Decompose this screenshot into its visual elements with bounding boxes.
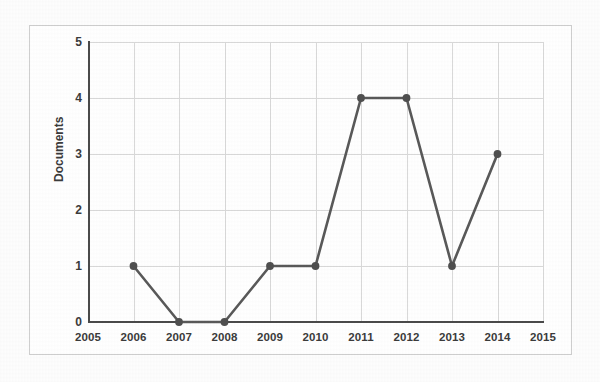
x-axis-tick-label: 2013 [429, 331, 475, 343]
y-axis-tick-label: 2 [60, 204, 82, 216]
x-axis-tick-label: 2008 [202, 331, 248, 343]
gridline-vertical [361, 42, 362, 322]
y-axis-tick-label: 1 [60, 260, 82, 272]
gridline-vertical [407, 42, 408, 322]
gridline-vertical [134, 42, 135, 322]
gridline-vertical [179, 42, 180, 322]
x-axis-tick-label: 2011 [338, 331, 384, 343]
x-axis-tick-label: 2007 [156, 331, 202, 343]
gridline-vertical [270, 42, 271, 322]
x-axis-tick-label: 2009 [247, 331, 293, 343]
y-axis-tick-label: 4 [60, 92, 82, 104]
y-axis-tick-labels: 012345 [58, 0, 82, 382]
gridline-vertical [225, 42, 226, 322]
gridline-vertical [452, 42, 453, 322]
x-axis-tick-label: 2010 [293, 331, 339, 343]
gridline-vertical [316, 42, 317, 322]
x-axis-tick-label: 2012 [384, 331, 430, 343]
y-axis-line [88, 41, 90, 323]
chart-screenshot: 012345 200520062007200820092010201120122… [0, 0, 600, 382]
x-axis-tick-label: 2005 [65, 331, 111, 343]
x-axis-line [88, 321, 544, 323]
y-axis-tick-label: 5 [60, 36, 82, 48]
plot-area [88, 42, 543, 322]
x-axis-tick-label: 2006 [111, 331, 157, 343]
y-axis-title: Documents [52, 117, 66, 182]
x-axis-tick-label: 2014 [475, 331, 521, 343]
gridline-vertical [543, 42, 544, 322]
x-axis-tick-label: 2015 [520, 331, 566, 343]
y-axis-tick-label: 0 [60, 316, 82, 328]
gridline-vertical [498, 42, 499, 322]
